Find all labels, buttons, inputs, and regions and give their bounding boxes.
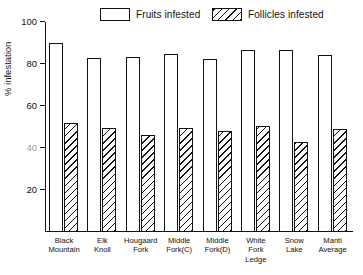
bar-fruits bbox=[49, 43, 63, 232]
infestation-bar-chart: Fruits infested Follicles infested % inf… bbox=[0, 0, 363, 275]
bar-group bbox=[241, 22, 271, 232]
y-axis-tick-100: 100 bbox=[40, 21, 45, 22]
bar-follicles bbox=[294, 142, 308, 232]
legend-entry-fruits-infested: Fruits infested bbox=[100, 8, 200, 21]
y-axis-tick-label-60: 60 bbox=[26, 100, 37, 111]
y-axis-tick-60: 60 bbox=[40, 105, 45, 106]
x-axis-category-labels: Black MountainElk KnollHougaard ForkMidd… bbox=[46, 236, 353, 274]
bar-follicles bbox=[179, 128, 193, 232]
y-axis-tick-label-20: 20 bbox=[26, 184, 37, 195]
open-box-swatch-icon bbox=[100, 8, 130, 21]
bar-follicles bbox=[218, 131, 232, 232]
y-axis-tick-20: 20 bbox=[40, 189, 45, 190]
bar-group bbox=[126, 22, 156, 232]
bar-fruits bbox=[164, 54, 178, 233]
legend-label-fruits-infested: Fruits infested bbox=[136, 9, 200, 20]
bar-follicles bbox=[64, 123, 78, 232]
bar-group bbox=[49, 22, 79, 232]
y-axis-tick-label-80: 80 bbox=[26, 58, 37, 69]
bar-groups bbox=[46, 22, 353, 232]
bar-group bbox=[164, 22, 194, 232]
y-axis-tick-40: 40 bbox=[40, 147, 45, 148]
y-axis-title: % infestation bbox=[2, 42, 13, 96]
bar-follicles bbox=[333, 129, 347, 232]
bar-fruits bbox=[126, 57, 140, 232]
bar-fruits bbox=[241, 50, 255, 232]
bar-group bbox=[318, 22, 348, 232]
x-axis-label: Manti Average bbox=[304, 236, 362, 255]
bar-fruits bbox=[203, 59, 217, 232]
bar-fruits bbox=[318, 55, 332, 232]
bar-group bbox=[87, 22, 117, 232]
bar-fruits bbox=[87, 58, 101, 232]
bar-fruits bbox=[279, 50, 293, 232]
bar-follicles bbox=[256, 126, 270, 232]
bar-group bbox=[279, 22, 309, 232]
y-axis-tick-label-100: 100 bbox=[21, 16, 37, 27]
bar-follicles bbox=[102, 128, 116, 232]
legend-entry-follicles-infested: Follicles infested bbox=[212, 8, 324, 21]
legend-label-follicles-infested: Follicles infested bbox=[248, 9, 324, 20]
bar-group bbox=[203, 22, 233, 232]
plot-area: 20406080100 bbox=[45, 22, 353, 232]
y-axis-tick-80: 80 bbox=[40, 63, 45, 64]
bar-follicles bbox=[141, 135, 155, 232]
hatched-box-swatch-icon bbox=[212, 8, 242, 21]
y-axis-tick-label-40: 40 bbox=[26, 142, 37, 153]
